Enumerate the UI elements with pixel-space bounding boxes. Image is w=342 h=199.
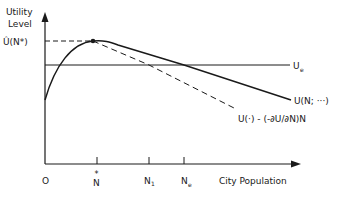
utility-city-size-diagram: Utility Level Û(N*) O * N N 1 N e City P… — [0, 0, 342, 199]
x-ticks — [97, 157, 184, 164]
y-axis-label-line2: Level — [8, 19, 32, 29]
y-axis-label-line1: Utility — [6, 7, 33, 17]
n-star-label: N — [93, 178, 100, 188]
ne-subscript: e — [188, 181, 192, 188]
n1-subscript: 1 — [151, 180, 155, 187]
ue-label: U — [293, 61, 300, 71]
origin-label: O — [42, 176, 49, 186]
y-axis-arrow-icon — [42, 12, 49, 22]
x-axis-arrow-icon — [291, 161, 301, 168]
utility-curve-solid — [45, 41, 291, 100]
ne-label: N — [181, 176, 188, 186]
solid-curve-label: U(N; ···) — [294, 96, 329, 106]
dashed-curve-label: U(·) - (-∂U/∂N)N — [238, 114, 306, 124]
n1-label: N — [144, 176, 151, 186]
peak-utility-label: Û(N*) — [3, 36, 28, 47]
axes — [45, 20, 293, 164]
x-axis-label: City Population — [219, 176, 287, 186]
peak-point — [91, 39, 96, 44]
ue-subscript: e — [300, 66, 304, 73]
